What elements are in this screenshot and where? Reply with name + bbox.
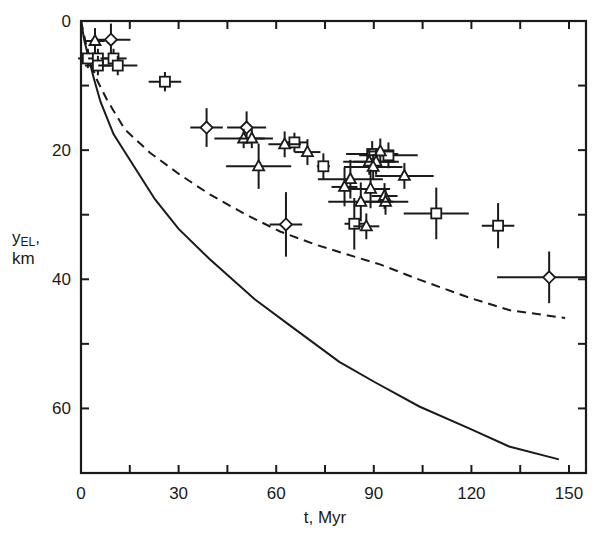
diamond-marker-icon [105,34,117,46]
triangle-data-point [268,131,301,157]
square-data-point [404,188,469,240]
square-marker-icon [160,77,170,87]
x-axis-label: t, Myr [0,508,602,528]
y-tick-label: 20 [52,141,71,160]
y-axis-label: yEL, km [12,228,40,269]
diamond-marker-icon [280,218,292,230]
x-tick-label: 60 [267,484,286,503]
square-marker-icon [431,208,441,218]
diamond-marker-icon [201,122,213,134]
model-curves [81,21,565,459]
y-tick-label: 60 [52,399,71,418]
diamond-data-point [497,252,586,304]
y-tick-label: 40 [52,270,71,289]
square-marker-icon [493,221,503,231]
axes-frame [81,21,586,473]
diamond-data-point [270,192,303,257]
square-data-point [149,72,182,91]
triangle-data-point [226,144,291,189]
diamond-marker-icon [543,271,555,283]
square-marker-icon [289,137,299,147]
solid-model-curve [81,21,559,459]
y-tick-label: 0 [62,12,71,31]
y-axis-label-unit: km [12,249,35,268]
x-tick-label: 0 [76,484,85,503]
x-tick-label: 120 [457,484,485,503]
plot-area: 03060901201500204060 [0,0,602,540]
square-data-point [482,203,515,248]
diamond-data-point [190,108,223,147]
square-data-point [317,153,330,179]
x-tick-label: 150 [555,484,583,503]
data-points [78,24,586,304]
x-tick-label: 30 [169,484,188,503]
diamond-marker-icon [241,122,253,134]
y-axis-label-subscript: EL [21,235,36,249]
axis-ticks: 03060901201500204060 [52,12,586,503]
y-axis-label-comma: , [35,228,40,247]
x-tick-label: 90 [364,484,383,503]
square-marker-icon [113,61,123,71]
square-marker-icon [318,161,328,171]
y-axis-label-main: y [12,228,21,247]
triangle-data-point [353,213,379,239]
